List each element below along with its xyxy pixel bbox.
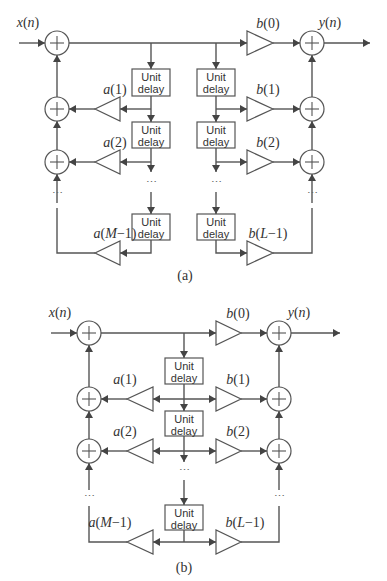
gain-label: b(0) [256,16,280,32]
label-index: 2 [238,424,245,439]
label-paren: ) [306,305,311,321]
gain-multiplier [247,31,273,55]
unit-delay-label: Unit [174,413,194,425]
summing-junction [45,150,69,174]
gain-label: b(L−1) [225,515,264,531]
arrowhead-icon [180,498,188,505]
label-index: 1 [268,82,275,97]
gain-multiplier [127,439,153,463]
arrowhead-icon [69,158,76,166]
arrowhead-icon [260,329,267,337]
gain-multiplier [95,150,120,174]
feedback-wire [57,208,95,253]
label-symbol: b [256,82,263,97]
gain-label: a(1) [103,82,127,98]
unit-delay-block: Unitdelay [197,214,235,240]
label-index: 2 [125,424,132,439]
output-label: y(n) [286,305,311,321]
label-paren: ) [337,15,342,31]
gain-label: a(2) [113,424,137,440]
arrowhead-icon [153,395,160,403]
label-symbol: a [103,135,110,150]
arrowhead-icon [240,249,247,257]
gain-label: a(2) [103,135,127,151]
summing-junction [45,97,69,121]
label-index: L [236,515,245,530]
label-index: 1 [125,372,132,387]
unit-delay-label: Unit [141,216,161,228]
unit-delay-label: Unit [206,71,226,83]
label-paren: ) [275,16,280,32]
arrowhead-icon [70,329,77,337]
label-paren: ) [35,15,40,31]
arrowhead-icon [240,105,247,113]
unit-delay-block: Unitdelay [165,358,203,384]
gain-multiplier [95,241,120,265]
gain-label: b(1) [226,372,250,388]
label-paren: ) [245,424,250,440]
arrowhead-icon [260,447,267,455]
unit-delay-block: Unitdelay [132,214,170,240]
arrowhead-icon [212,115,220,122]
label-paren: ) [260,515,265,531]
gain-multiplier [95,97,120,121]
input-label: x(n) [16,15,40,31]
gain-label: b(2) [256,135,280,151]
arrowhead-icon [101,395,108,403]
arrowhead-icon [209,538,216,546]
unit-delay-label: delay [138,228,165,240]
unit-delay-block: Unitdelay [197,122,235,148]
arrowhead-icon [212,165,220,172]
arrowhead-icon [85,463,93,470]
ellipsis: ⋯ [52,187,63,199]
label-paren: ) [283,226,288,242]
ellipsis: ⋯ [179,464,190,476]
summing-junction [45,31,69,55]
label-index: 0 [268,16,275,31]
label-index: n [60,305,67,320]
unit-delay-label: Unit [174,507,194,519]
arrowhead-icon [212,207,220,214]
label-symbol: b [226,306,233,321]
unit-delay-label: delay [171,425,198,437]
label-symbol: a [94,226,101,241]
label-symbol: b [226,372,233,387]
label-paren: ) [275,82,280,98]
arrowhead-icon [69,105,76,113]
label-index: 1 [115,82,122,97]
gain-label: a(M−1) [89,515,132,531]
label-paren: ) [132,424,137,440]
label-paren: ) [127,515,132,531]
label-symbol: a [113,424,120,439]
arrowhead-icon [120,249,127,257]
unit-delay-label: Unit [141,71,161,83]
arrowhead-icon [293,105,300,113]
gain-multiplier [247,241,273,265]
caption-a: (a) [177,268,193,284]
summing-junction [300,150,324,174]
arrowhead-icon [308,174,316,181]
arrowhead-icon [85,345,93,352]
arrowhead-icon [293,39,300,47]
gain-label: b(2) [226,424,250,440]
label-index: 0 [238,306,245,321]
diagram-a: x(n)⋯⋯y(n)UnitdelayUnitdelayUnitdelay⋯Un… [16,15,370,284]
arrowhead-icon [260,395,267,403]
label-paren: ) [245,306,250,322]
gain-multiplier [216,321,241,345]
unit-delay-label: Unit [206,124,226,136]
arrowhead-icon [308,55,316,62]
ellipsis: ⋯ [307,187,318,199]
unit-delay-label: delay [171,372,198,384]
label-index: n [299,305,306,320]
summing-junction [267,387,291,411]
unit-delay-label: delay [171,519,198,531]
gain-multiplier [127,387,153,411]
arrowhead-icon [275,463,283,470]
unit-delay-label: Unit [174,360,194,372]
summing-junction [267,321,291,345]
summing-junction [267,439,291,463]
label-index: 1 [238,372,245,387]
arrowhead-icon [101,447,108,455]
arrowhead-icon [147,62,155,69]
